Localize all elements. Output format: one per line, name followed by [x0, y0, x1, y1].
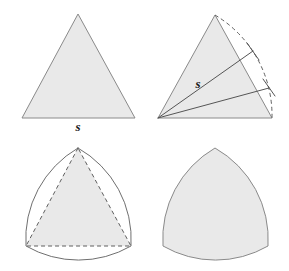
figure-root: s s: [0, 0, 289, 271]
radius-length-label-s: s: [194, 76, 200, 91]
reuleaux-construction-figure: s s: [0, 0, 289, 271]
side-length-label-s: s: [74, 119, 80, 134]
